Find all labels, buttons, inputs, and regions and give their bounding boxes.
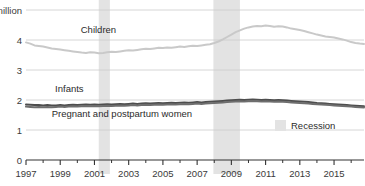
x-axis-tick-label: 2005	[152, 168, 173, 179]
y-axis-tick-label: 3	[17, 65, 22, 76]
x-axis-tick-label: 2007	[187, 168, 208, 179]
x-axis-tick-label: 2001	[84, 168, 105, 179]
series-lines	[26, 26, 364, 108]
x-axis-tick-label: 2015	[323, 168, 344, 179]
legend-label: Recession	[291, 120, 335, 131]
x-axis-labels: 1997199920012003200520072009201120132015	[15, 168, 344, 179]
y-axis-labels: 012345 million	[0, 5, 22, 166]
x-axis-tick-label: 1997	[15, 168, 36, 179]
series-label: Children	[81, 24, 116, 35]
y-axis-tick-label: 5 million	[0, 5, 22, 16]
y-axis-tick-label: 1	[17, 125, 22, 136]
y-axis-tick-label: 4	[17, 35, 22, 46]
series-label: Pregnant and postpartum women	[52, 108, 192, 119]
x-axis-tick-label: 1999	[50, 168, 71, 179]
x-axis	[26, 160, 364, 165]
x-axis-tick-label: 2013	[289, 168, 310, 179]
x-axis-tick-label: 2009	[221, 168, 242, 179]
series-label: Infants	[55, 83, 84, 94]
x-axis-tick-label: 2003	[118, 168, 139, 179]
recession-bands	[99, 0, 240, 174]
chart-container: 012345 million 1997199920012003200520072…	[0, 0, 365, 186]
series-line	[26, 26, 364, 54]
legend: Recession	[275, 120, 335, 131]
line-chart: 012345 million 1997199920012003200520072…	[0, 0, 365, 186]
y-axis-tick-label: 2	[17, 95, 22, 106]
y-axis-tick-label: 0	[17, 155, 22, 166]
x-axis-tick-label: 2011	[255, 168, 275, 179]
recession-band	[213, 0, 240, 174]
legend-swatch	[275, 120, 286, 131]
